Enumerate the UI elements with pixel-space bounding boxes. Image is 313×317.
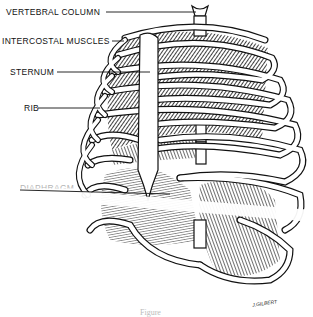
figure-caption: Figure (140, 308, 161, 317)
label-intercostal-muscles: INTERCOSTAL MUSCLES (2, 36, 110, 46)
sternum (138, 33, 158, 200)
label-vertebral-column: VERTEBRAL COLUMN (6, 7, 100, 17)
label-rib: RIB (24, 103, 39, 113)
label-sternum: STERNUM (10, 67, 54, 77)
